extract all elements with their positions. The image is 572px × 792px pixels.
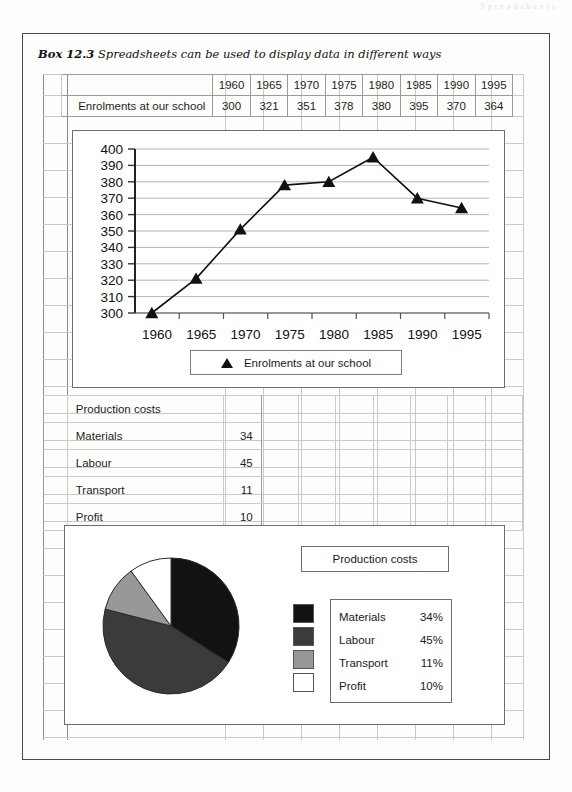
blank-cell: [299, 477, 336, 504]
svg-text:360: 360: [100, 208, 123, 223]
pie-chart-title: Production costs: [332, 553, 417, 565]
svg-text:380: 380: [100, 175, 123, 190]
blank-cell: [373, 396, 410, 423]
page-running-header: Spreadsheets: [480, 2, 558, 11]
legend-pct-2: 11%: [421, 657, 443, 669]
cost-name-2: Transport: [67, 477, 223, 504]
blank-cell: [485, 396, 522, 423]
legend-swatch-transport: [293, 650, 314, 669]
grid-gutter-cell: [44, 423, 68, 450]
svg-text:350: 350: [100, 224, 123, 239]
svg-text:330: 330: [100, 257, 123, 272]
blank-cell: [448, 477, 485, 504]
legend-row: Transport 11%: [331, 651, 451, 674]
pie-chart-legend: Materials 34% Labour 45% Transport 11% P…: [330, 599, 452, 703]
blank-cell: [448, 396, 485, 423]
blank-cell: [448, 450, 485, 477]
table-row-title: Production costs: [44, 396, 523, 423]
cost-value-0: 34: [223, 423, 261, 450]
production-costs-table: Production costs Materials 34 Labour: [43, 395, 523, 531]
year-header-2: 1970: [288, 75, 325, 96]
svg-text:1970: 1970: [231, 327, 261, 342]
svg-text:1960: 1960: [142, 327, 172, 342]
header-blank-cell: [62, 75, 213, 96]
enrolment-data-table: 1960 1965 1970 1975 1980 1985 1990 1995 …: [43, 74, 523, 117]
line-chart-legend: Enrolments at our school: [190, 350, 402, 375]
enrolment-value-2: 351: [288, 96, 325, 117]
enrolment-value-3: 378: [325, 96, 362, 117]
box-caption-text: Spreadsheets can be used to display data…: [98, 47, 442, 61]
svg-text:1995: 1995: [452, 327, 482, 342]
blank-cell: [448, 423, 485, 450]
pie-chart-panel: Production costs Materials 34% Labour 45…: [64, 525, 505, 725]
blank-cell: [485, 423, 522, 450]
blank-cell: [299, 450, 336, 477]
legend-label-2: Transport: [339, 657, 421, 669]
year-header-4: 1980: [363, 75, 400, 96]
svg-text:320: 320: [100, 273, 123, 288]
blank-cell: [485, 450, 522, 477]
legend-row: Materials 34%: [331, 605, 451, 628]
legend-pct-0: 34%: [420, 611, 443, 623]
blank-cell: [373, 477, 410, 504]
line-chart-svg: 3003103203303403503603703803904001960196…: [73, 131, 503, 386]
svg-text:1965: 1965: [186, 327, 216, 342]
legend-row: Labour 45%: [331, 628, 451, 651]
cost-value-1: 45: [223, 450, 261, 477]
box-caption: Box 12.3 Spreadsheets can be used to dis…: [38, 47, 441, 61]
legend-row: Profit 10%: [331, 674, 451, 697]
svg-text:340: 340: [100, 240, 123, 255]
table-row-header: 1960 1965 1970 1975 1980 1985 1990 1995: [43, 75, 523, 96]
blank-cell: [410, 450, 447, 477]
year-header-7: 1995: [475, 75, 512, 96]
blank-cell: [336, 477, 373, 504]
cost-name-1: Labour: [67, 450, 223, 477]
svg-text:1975: 1975: [275, 327, 305, 342]
svg-text:1990: 1990: [408, 327, 438, 342]
svg-text:1980: 1980: [319, 327, 349, 342]
table-row: Materials 34: [44, 423, 523, 450]
grid-tail-cell: [513, 96, 524, 117]
svg-text:1985: 1985: [363, 327, 393, 342]
pie-chart-svg: [101, 556, 241, 696]
cost-table-title: Production costs: [67, 396, 223, 423]
svg-text:400: 400: [100, 142, 123, 157]
grid-tail-cell: [513, 75, 524, 96]
triangle-marker-icon: [221, 358, 233, 368]
blank-cell: [261, 477, 298, 504]
legend-pct-3: 10%: [420, 680, 443, 692]
blank-cell: [336, 396, 373, 423]
cost-title-value: [223, 396, 261, 423]
legend-label-1: Labour: [339, 634, 420, 646]
legend-label-0: Materials: [339, 611, 420, 623]
blank-cell: [410, 477, 447, 504]
enrolment-value-1: 321: [250, 96, 287, 117]
pie-chart-title-box: Production costs: [301, 546, 449, 572]
line-legend-label: Enrolments at our school: [244, 357, 371, 369]
year-header-1: 1965: [250, 75, 287, 96]
enrolment-value-6: 370: [438, 96, 475, 117]
svg-text:370: 370: [100, 191, 123, 206]
pie-legend-swatches: [293, 604, 317, 696]
year-header-3: 1975: [325, 75, 362, 96]
cost-name-0: Materials: [67, 423, 223, 450]
cost-value-2: 11: [223, 477, 261, 504]
year-header-6: 1990: [438, 75, 475, 96]
table-row: Transport 11: [44, 477, 523, 504]
legend-swatch-materials: [293, 604, 314, 623]
svg-text:310: 310: [100, 290, 123, 305]
blank-cell: [261, 423, 298, 450]
box-number: Box 12.3: [38, 47, 94, 61]
blank-cell: [261, 396, 298, 423]
blank-cell: [410, 423, 447, 450]
grid-gutter-cell: [43, 75, 62, 96]
blank-cell: [299, 423, 336, 450]
enrolment-value-0: 300: [213, 96, 250, 117]
svg-text:390: 390: [100, 158, 123, 173]
grid-gutter-cell: [44, 450, 68, 477]
enrolment-row-label: Enrolments at our school: [62, 96, 213, 117]
enrolment-value-5: 395: [400, 96, 437, 117]
legend-swatch-labour: [293, 627, 314, 646]
grid-gutter-cell: [44, 477, 68, 504]
grid-gutter-cell: [43, 96, 62, 117]
